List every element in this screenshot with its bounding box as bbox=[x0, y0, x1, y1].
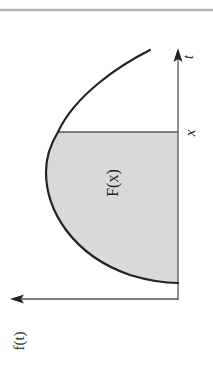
area-under-curve-diagram: f(t) t x F(x) bbox=[0, 0, 213, 365]
f-axis-label: f(t) bbox=[11, 331, 28, 350]
area-label: F(x) bbox=[104, 169, 122, 197]
shaded-area-region bbox=[46, 132, 178, 283]
t-axis-label: t bbox=[181, 54, 196, 59]
x-marker-label: x bbox=[182, 129, 198, 137]
